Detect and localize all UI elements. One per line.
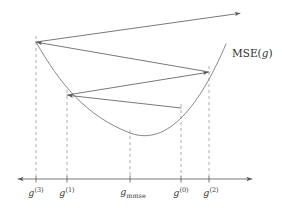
curve-label-mse: MSE(g)	[232, 47, 273, 59]
iteration-path	[36, 13, 240, 108]
segment-g3-outward	[36, 13, 240, 42]
tick-label-g2: g(2)	[203, 186, 218, 198]
tick-label-g1: g(1)	[59, 186, 74, 198]
segment-g2-to-g3	[37, 42, 209, 72]
tick-label-g2-sup: (2)	[209, 186, 218, 194]
tick-label-g1-sup: (1)	[65, 186, 74, 194]
tick-label-g3-sup: (3)	[34, 186, 43, 194]
tick-label-gmmse: gmmse	[120, 186, 146, 200]
curve-label-function-name: MSE	[232, 47, 258, 59]
mse-convergence-figure: g(3) g(1) gmmse g(0) g(2) MSE(g)	[0, 0, 282, 220]
curve-label-close-paren: )	[268, 47, 272, 59]
mse-parabola-curve	[36, 42, 226, 136]
tick-label-g0-sup: (0)	[179, 186, 188, 194]
tick-label-g3: g(3)	[28, 186, 43, 198]
tick-label-g0: g(0)	[173, 186, 188, 198]
segment-g1-to-g2	[67, 72, 208, 95]
tick-label-gmmse-sub: mmse	[126, 192, 146, 200]
